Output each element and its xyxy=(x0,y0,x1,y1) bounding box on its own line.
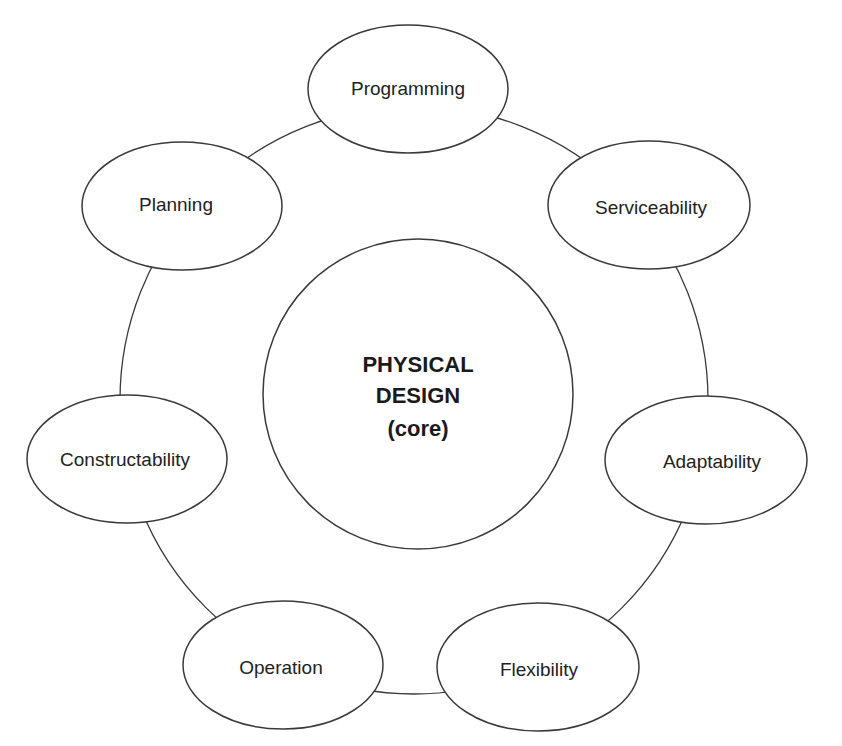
node-programming: Programming xyxy=(308,25,508,153)
node-flexibility: Flexibility xyxy=(437,603,639,731)
node-label-flexibility: Flexibility xyxy=(500,659,579,680)
node-label-planning: Planning xyxy=(139,194,213,215)
node-operation: Operation xyxy=(183,601,383,729)
physical-design-diagram: PHYSICAL DESIGN (core) Programming Servi… xyxy=(0,0,842,746)
node-planning: Planning xyxy=(82,142,282,270)
node-label-serviceability: Serviceability xyxy=(595,197,707,218)
core-node: PHYSICAL DESIGN (core) xyxy=(263,239,573,549)
node-label-constructability: Constructability xyxy=(60,449,190,470)
node-label-adaptability: Adaptability xyxy=(663,451,762,472)
node-adaptability: Adaptability xyxy=(605,396,807,524)
node-label-programming: Programming xyxy=(351,78,465,99)
core-label-line-1: PHYSICAL xyxy=(362,352,473,377)
node-label-operation: Operation xyxy=(239,657,322,678)
node-serviceability: Serviceability xyxy=(548,141,750,269)
core-label-line-3: (core) xyxy=(387,416,448,441)
core-label-line-2: DESIGN xyxy=(376,383,460,408)
node-constructability: Constructability xyxy=(27,395,227,523)
